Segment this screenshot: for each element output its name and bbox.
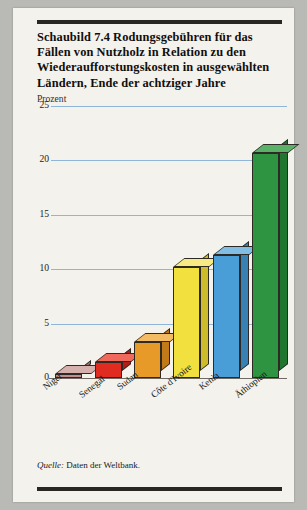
bar-side-face (240, 241, 249, 371)
bar--thiopien (252, 144, 279, 378)
bar-front-face (213, 255, 240, 378)
figure-page: Schaubild 7.4 Rodungsgebühren für das Fä… (13, 8, 294, 502)
source-note: Quelle: Daten der Weltbank. (37, 460, 140, 470)
x-axis-labels: NigerSenegalSudanCôte d'IvoireKeniaÄthio… (37, 380, 289, 442)
y-tick-label: 10 (37, 263, 49, 273)
y-tick-label: 5 (37, 318, 49, 328)
bar-kenia (213, 246, 240, 378)
bottom-rule (37, 487, 282, 491)
chart-plot-area: 0510152025 (37, 106, 287, 378)
bar-top-face (252, 144, 300, 153)
source-prefix: Quelle: (37, 460, 64, 470)
figure-title: Schaubild 7.4 Rodungsgebühren für das Fä… (37, 30, 285, 91)
bar-c-te-d-ivoire (173, 258, 200, 378)
top-rule (37, 20, 282, 24)
bar-side-face (200, 253, 209, 371)
bar-front-face (252, 153, 279, 378)
bar-front-face (134, 342, 161, 378)
bar-series (51, 106, 287, 378)
y-tick-label: 20 (37, 154, 49, 164)
bar-side-face (279, 139, 288, 371)
bar-sudan (134, 333, 161, 378)
y-tick-label: 15 (37, 209, 49, 219)
y-tick-label: 25 (37, 100, 49, 110)
source-text: Daten der Weltbank. (64, 460, 140, 470)
